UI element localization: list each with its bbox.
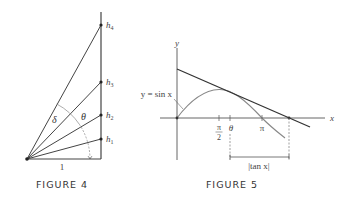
origin-point	[25, 157, 29, 161]
origin-point	[176, 117, 179, 120]
point-h4	[99, 23, 102, 26]
label-h1: h1	[106, 134, 114, 145]
figure-5: y x y = sin x π 2 θ π |tan x| FIGURE 5	[141, 38, 334, 190]
sine-curve-label: y = sin x	[141, 89, 173, 99]
label-h2: h2	[106, 110, 114, 121]
curve-label-pointer	[174, 99, 183, 109]
label-h4: h4	[106, 20, 114, 31]
tick-label-pi-numerator: π	[217, 123, 221, 132]
point-h2	[99, 113, 102, 116]
ray-h4	[27, 25, 101, 159]
figures-canvas: δ θ h1 h2 h3 h4 1 FIGURE 4 y x y = sin x…	[0, 0, 343, 201]
point-h1	[99, 137, 102, 140]
tick-label-2-denominator: 2	[217, 133, 221, 142]
ray-h1	[27, 139, 101, 159]
label-h3: h3	[106, 77, 114, 88]
point-h3	[99, 80, 102, 83]
y-axis-label: y	[174, 38, 179, 48]
base-length-label: 1	[60, 162, 65, 172]
figure-4-caption: FIGURE 4	[36, 179, 88, 190]
delta-label: δ	[52, 114, 57, 125]
theta-arc	[80, 125, 91, 160]
tick-label-theta: θ	[229, 123, 234, 133]
figure-4: δ θ h1 h2 h3 h4 1 FIGURE 4	[25, 12, 113, 190]
tan-interval-label: |tan x|	[248, 161, 270, 171]
ray-h2	[27, 115, 101, 159]
figure-5-caption: FIGURE 5	[206, 179, 258, 190]
x-axis-label: x	[329, 113, 334, 123]
tick-label-pi: π	[260, 123, 265, 133]
ray-h3	[27, 82, 101, 159]
theta-label: θ	[81, 111, 86, 122]
delta-arc	[57, 104, 80, 125]
